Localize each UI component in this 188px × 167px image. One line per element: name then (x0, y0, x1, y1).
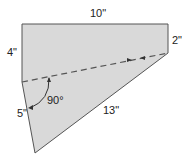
diagram-canvas: 10" 4" 2" 5" 13" 90° (0, 0, 188, 167)
label-left-lower: 5" (17, 107, 27, 119)
label-angle: 90° (47, 94, 64, 106)
label-hypotenuse: 13" (103, 104, 119, 116)
label-left-upper: 4" (7, 46, 17, 58)
label-top: 10" (90, 7, 106, 19)
shape-region (22, 24, 168, 153)
label-right: 2" (172, 34, 182, 46)
